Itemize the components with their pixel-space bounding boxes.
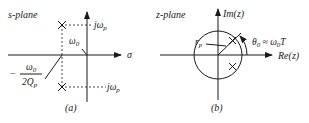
lower-z-pole-x-icon xyxy=(229,63,236,70)
sigma-label: σ xyxy=(127,49,133,60)
omega0-leader xyxy=(82,49,87,55)
z-plane-label: z-plane xyxy=(155,9,186,20)
caption-b: (b) xyxy=(211,102,223,114)
svg-text:−: − xyxy=(10,68,16,79)
pole-diagram: s-plane σ jωp jωp ω0 xyxy=(0,0,309,123)
upper-pole-label: jωp xyxy=(92,20,107,32)
lower-pole-label: jωp xyxy=(105,82,120,94)
angle-arc xyxy=(240,36,247,55)
real-part-leader xyxy=(45,55,62,79)
panel-a-s-plane: s-plane σ jωp jωp ω0 xyxy=(8,9,133,114)
svg-text:2Qp: 2Qp xyxy=(22,77,38,89)
svg-text:ω0: ω0 xyxy=(26,62,37,74)
upper-z-pole-x-icon xyxy=(229,37,236,44)
s-plane-label: s-plane xyxy=(8,9,38,20)
radius-leader xyxy=(206,44,226,46)
angle-label: θ0 ≈ ω0T xyxy=(252,37,286,49)
radius-label: rp xyxy=(195,37,203,49)
upper-pole-x-icon xyxy=(58,21,66,29)
caption-a: (a) xyxy=(65,102,77,114)
real-axis-label: Re(z) xyxy=(277,50,300,62)
omega0-label: ω0 xyxy=(69,36,80,48)
panel-b-z-plane: z-plane Im(z) Re(z) rp θ0 ≈ ω0T xyxy=(155,8,300,114)
imag-axis-label: Im(z) xyxy=(222,8,245,20)
real-part-label: − ω0 2Qp xyxy=(10,62,42,89)
lower-pole-x-icon xyxy=(58,83,66,91)
